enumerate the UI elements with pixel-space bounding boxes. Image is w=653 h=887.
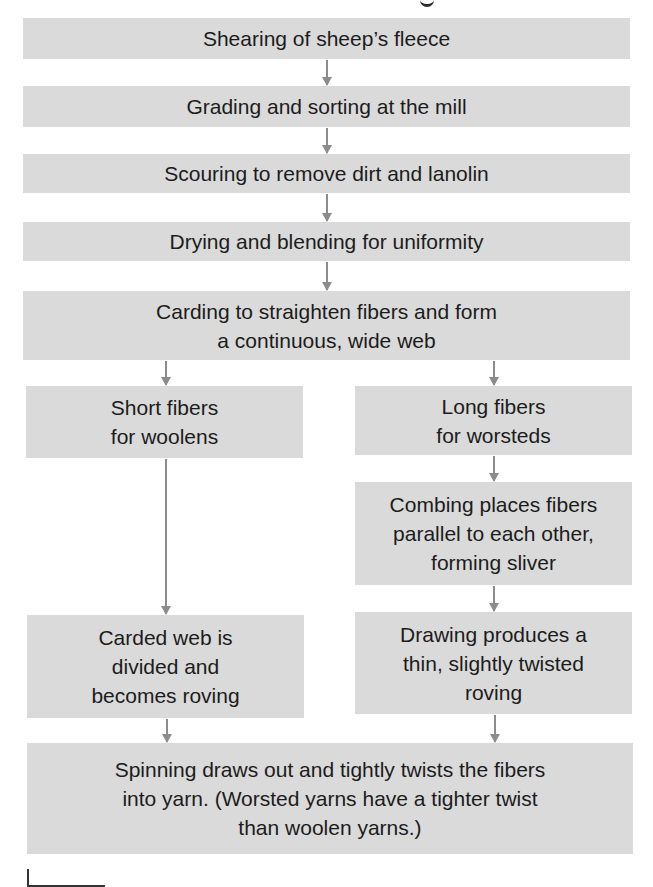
- step-spinning-label: Spinning draws out and tightly twists th…: [115, 755, 546, 842]
- step-long-fibers: Long fibers for worsteds: [355, 386, 632, 455]
- arrow-down-icon: [493, 586, 495, 611]
- step-carded-web: Carded web is divided and becomes roving: [27, 615, 304, 718]
- arrow-down-icon: [326, 194, 328, 221]
- arrow-down-icon: [493, 456, 495, 481]
- step-long-fibers-label: Long fibers for worsteds: [436, 392, 550, 450]
- step-grading-label: Grading and sorting at the mill: [186, 92, 466, 121]
- step-scouring: Scouring to remove dirt and lanolin: [23, 154, 630, 193]
- step-short-fibers-label: Short fibers for woolens: [111, 393, 218, 451]
- step-carding-label: Carding to straighten fibers and form a …: [156, 297, 497, 355]
- title-fragment: [420, 0, 434, 7]
- step-combing: Combing places fibers parallel to each o…: [355, 482, 632, 585]
- step-combing-label: Combing places fibers parallel to each o…: [390, 490, 598, 577]
- step-carding: Carding to straighten fibers and form a …: [23, 291, 630, 360]
- step-drawing: Drawing produces a thin, slightly twiste…: [355, 612, 632, 714]
- arrow-down-icon: [326, 262, 328, 290]
- arrow-down-icon: [494, 715, 496, 742]
- step-drawing-label: Drawing produces a thin, slightly twiste…: [400, 620, 587, 707]
- arrow-down-icon: [165, 361, 167, 385]
- step-drying: Drying and blending for uniformity: [23, 222, 630, 261]
- step-drying-label: Drying and blending for uniformity: [170, 227, 484, 256]
- step-shearing-label: Shearing of sheep’s fleece: [203, 24, 450, 53]
- step-grading: Grading and sorting at the mill: [23, 86, 630, 127]
- arrow-down-icon: [166, 719, 168, 742]
- arrow-down-icon: [326, 60, 328, 85]
- step-carded-web-label: Carded web is divided and becomes roving: [91, 623, 239, 710]
- corner-bracket-mark: [27, 869, 105, 887]
- step-spinning: Spinning draws out and tightly twists th…: [27, 743, 633, 854]
- arrow-down-icon: [165, 459, 167, 614]
- step-short-fibers: Short fibers for woolens: [26, 386, 303, 458]
- step-scouring-label: Scouring to remove dirt and lanolin: [164, 159, 489, 188]
- step-shearing: Shearing of sheep’s fleece: [23, 18, 630, 59]
- arrow-down-icon: [326, 128, 328, 153]
- arrow-down-icon: [493, 361, 495, 385]
